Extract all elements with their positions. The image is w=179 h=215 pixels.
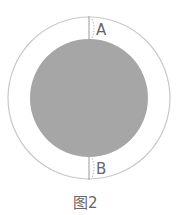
label-b: B <box>96 160 106 178</box>
inner-disc <box>30 39 148 157</box>
figure-2-diagram: A B 图2 <box>0 0 179 215</box>
figure-caption: 图2 <box>73 194 98 212</box>
label-a: A <box>96 21 107 39</box>
